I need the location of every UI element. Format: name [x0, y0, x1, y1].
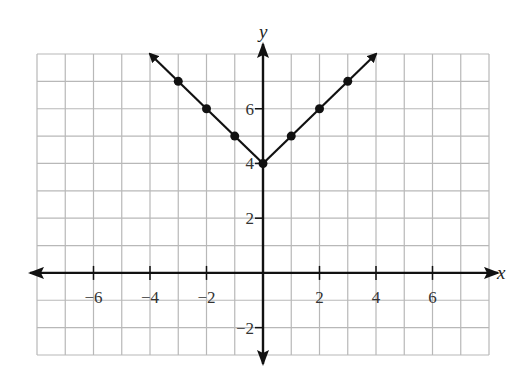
data-point	[174, 77, 183, 86]
y-tick-label: −2	[236, 319, 254, 338]
x-tick-label: −2	[197, 288, 215, 307]
axis-labels: x y	[257, 21, 506, 283]
x-axis-label: x	[496, 262, 506, 283]
data-point	[343, 77, 352, 86]
data-point	[230, 132, 239, 141]
data-point	[202, 104, 211, 113]
y-axis-label: y	[257, 21, 268, 42]
axes	[30, 44, 498, 364]
x-tick-label: 4	[372, 288, 381, 307]
x-tick-label: 6	[428, 288, 437, 307]
y-tick-label: 6	[246, 100, 255, 119]
y-tick-label: 4	[246, 154, 255, 173]
x-tick-label: −4	[141, 288, 160, 307]
chart: −6−4−2246−2246 x y	[0, 0, 528, 384]
x-tick-label: −6	[84, 288, 102, 307]
data-point	[287, 132, 296, 141]
data-point	[315, 104, 324, 113]
data-point	[259, 159, 268, 168]
x-tick-label: 2	[315, 288, 324, 307]
y-tick-label: 2	[246, 209, 255, 228]
